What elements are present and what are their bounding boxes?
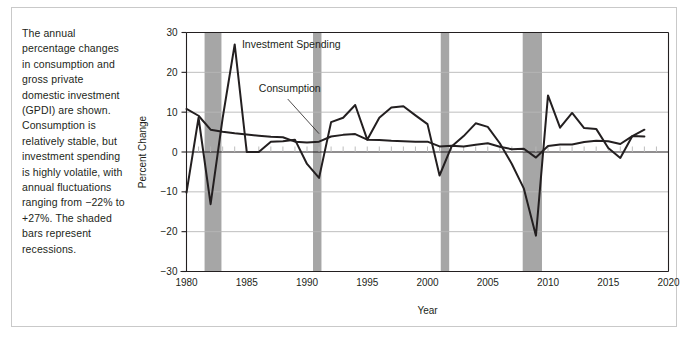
investment-spending-label: Investment Spending (242, 38, 341, 50)
ytick-label--20: −20 (161, 226, 178, 237)
y-axis-title: Percent Change (137, 115, 148, 188)
y-tick-labels: −30−20−100102030 (161, 27, 178, 277)
xtick-label-2005: 2005 (477, 277, 500, 288)
ytick-label--10: −10 (161, 186, 178, 197)
annotations: Investment SpendingConsumption (242, 38, 341, 134)
xtick-label-1980: 1980 (175, 277, 198, 288)
xtick-label-1995: 1995 (356, 277, 379, 288)
ytick-label-10: 10 (166, 107, 178, 118)
chart-container: −30−20−100102030 19801985199019952000200… (0, 0, 689, 337)
data-series (187, 44, 645, 235)
screenshot-root: The annual percentage changes in consump… (0, 0, 689, 337)
xtick-label-2015: 2015 (597, 277, 620, 288)
x-tick-labels: 198019851990199520002005201020152020 (175, 277, 680, 288)
ytick-label-30: 30 (166, 27, 178, 38)
ytick-label--30: −30 (161, 266, 178, 277)
xtick-label-1985: 1985 (236, 277, 259, 288)
series-line-investment-spending (187, 44, 645, 235)
ytick-label-0: 0 (172, 147, 178, 158)
xtick-label-2020: 2020 (657, 277, 680, 288)
xtick-label-2010: 2010 (537, 277, 560, 288)
consumption-label: Consumption (259, 82, 321, 94)
ytick-label-20: 20 (166, 67, 178, 78)
xtick-label-1990: 1990 (296, 277, 319, 288)
x-axis-title: Year (417, 305, 438, 316)
xtick-label-2000: 2000 (416, 277, 439, 288)
percent-change-line-chart: −30−20−100102030 19801985199019952000200… (0, 0, 689, 337)
